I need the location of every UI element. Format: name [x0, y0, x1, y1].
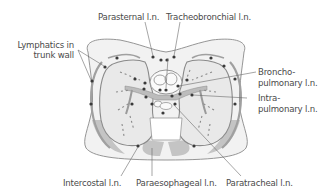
label-broncho-line2: pulmonary l.n. [258, 78, 317, 88]
label-intra-line1: Intra- [258, 93, 280, 103]
label-lymphatics-line1: Lymphatics in [14, 40, 74, 50]
label-parasternal: Parasternal l.n. [98, 12, 159, 22]
label-paraesophageal: Paraesophageal l.n. [136, 178, 217, 188]
thorax-cross-section [0, 0, 333, 196]
left-lung [100, 60, 155, 146]
label-intercostal: Intercostal l.n. [63, 178, 121, 188]
label-tracheobronchial: Tracheobronchial l.n. [166, 12, 251, 22]
label-intra-line2: pulmonary l.n. [258, 104, 317, 114]
label-lymphatics-line2: trunk wall [14, 50, 74, 60]
right-lung [177, 60, 232, 146]
label-broncho-line1: Broncho- [258, 67, 295, 77]
thorax-diagram: Parasternal l.n. Tracheobronchial l.n. L… [0, 0, 333, 196]
label-paratracheal: Paratracheal l.n. [226, 178, 293, 188]
